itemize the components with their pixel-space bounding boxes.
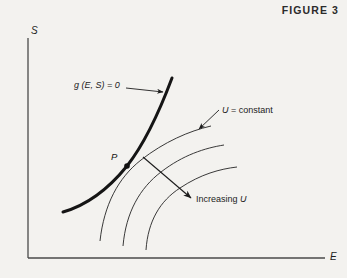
x-axis-label: E — [330, 252, 337, 262]
utility-curve-1 — [100, 126, 211, 241]
utility-curves-group — [100, 126, 237, 250]
increasing-u-label-text: Increasing — [196, 194, 240, 204]
utility-curve-3 — [146, 167, 237, 250]
axis-group — [28, 38, 325, 258]
increasing-u-arrow — [143, 157, 191, 198]
y-axis-label: S — [31, 26, 38, 36]
tangency-point-p — [124, 163, 130, 169]
isoline-label: U = constant — [222, 106, 273, 115]
isoline-label-rest: = constant — [229, 105, 273, 115]
increasing-u-label-symbol: U — [240, 194, 247, 204]
constraint-label: g (E, S) = 0 — [74, 81, 120, 90]
figure-container: FIGURE 3 g ( — [0, 0, 347, 278]
constraint-leader-arrow — [126, 88, 163, 92]
figure-graphic — [0, 0, 347, 278]
point-p-label: P — [111, 152, 117, 162]
increasing-u-label: Increasing U — [196, 195, 247, 204]
constraint-curve — [63, 78, 172, 212]
